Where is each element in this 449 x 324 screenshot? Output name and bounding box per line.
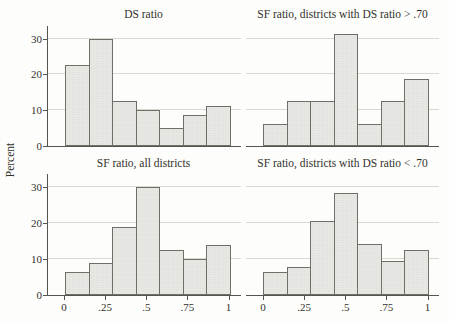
histogram-bar <box>310 101 335 146</box>
x-tick-label: 1 <box>216 300 242 314</box>
histogram-bar <box>287 267 312 296</box>
x-tick-label: .5 <box>332 300 358 314</box>
y-axis-title: Percent <box>4 143 16 177</box>
histogram-bar <box>357 244 382 295</box>
y-tick-mark <box>43 39 47 40</box>
x-tick-label: .25 <box>92 300 118 314</box>
histogram-bar <box>381 261 406 295</box>
histogram-bar <box>334 34 359 146</box>
histogram-bar <box>310 221 335 295</box>
histogram-panel-figure: Percent DS ratio SF ratio, districts wit… <box>0 0 449 324</box>
histogram-bar <box>206 106 231 146</box>
y-tick-mark <box>43 74 47 75</box>
histogram-bar <box>263 272 288 295</box>
panel-title-sf-ratio-lt-70: SF ratio, districts with DS ratio < .70 <box>246 156 439 170</box>
x-tick-label: 0 <box>51 300 77 314</box>
plot-area-sf-ratio-gt-70 <box>246 26 439 147</box>
x-tick-label: .75 <box>174 300 200 314</box>
y-tick-label: 20 <box>18 67 42 81</box>
panel-title-sf-ratio-all: SF ratio, all districts <box>47 156 240 170</box>
plot-area-sf-ratio-all <box>47 174 241 296</box>
histogram-bar <box>89 263 114 295</box>
histogram-bar <box>136 187 161 295</box>
histogram-bar <box>159 128 184 146</box>
histogram-bar <box>159 250 184 295</box>
y-tick-label: 10 <box>18 103 42 117</box>
histogram-bar <box>263 124 288 146</box>
y-tick-label: 0 <box>18 139 42 153</box>
y-tick-label: 30 <box>18 180 42 194</box>
gridline-30 <box>246 186 439 187</box>
y-tick-mark <box>43 187 47 188</box>
y-tick-mark <box>43 146 47 147</box>
histogram-bar <box>183 259 208 295</box>
y-tick-mark <box>43 295 47 296</box>
histogram-bar <box>65 272 90 295</box>
histogram-bar <box>287 101 312 146</box>
x-tick-label: .25 <box>291 300 317 314</box>
histogram-bar <box>334 193 359 295</box>
y-tick-mark <box>43 223 47 224</box>
panel-title-ds-ratio: DS ratio <box>47 7 240 21</box>
histogram-bar <box>112 101 137 146</box>
y-tick-label: 20 <box>18 216 42 230</box>
x-tick-label: .75 <box>373 300 399 314</box>
histogram-bar <box>357 124 382 146</box>
histogram-bar <box>404 79 429 146</box>
y-tick-mark <box>43 110 47 111</box>
plot-area-ds-ratio <box>47 26 241 147</box>
y-tick-label: 30 <box>18 32 42 46</box>
plot-area-sf-ratio-lt-70 <box>246 174 439 296</box>
y-tick-mark <box>43 259 47 260</box>
gridline-30 <box>48 38 241 39</box>
histogram-bar <box>404 250 429 295</box>
histogram-bar <box>89 39 114 147</box>
x-tick-label: 0 <box>250 300 276 314</box>
histogram-bar <box>183 115 208 146</box>
histogram-bar <box>206 245 231 295</box>
histogram-bar <box>381 101 406 146</box>
histogram-bar <box>136 110 161 146</box>
panel-title-sf-ratio-gt-70: SF ratio, districts with DS ratio > .70 <box>246 7 439 21</box>
histogram-bar <box>112 227 137 295</box>
y-tick-label: 10 <box>18 252 42 266</box>
y-tick-label: 0 <box>18 288 42 302</box>
x-tick-label: .5 <box>133 300 159 314</box>
histogram-bar <box>65 65 90 146</box>
x-tick-label: 1 <box>415 300 441 314</box>
